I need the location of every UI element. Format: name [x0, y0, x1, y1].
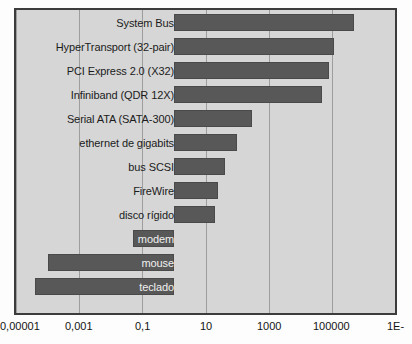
bar-row: FireWire — [16, 179, 395, 203]
category-label: modem — [16, 231, 178, 247]
bar-row: mouse — [16, 251, 395, 275]
category-label: Serial ATA (SATA-300) — [16, 111, 179, 127]
plot-area: System BusHyperTransport (32-pair)PCI Ex… — [16, 10, 395, 313]
bar-row: ethernet de gigabits — [16, 131, 395, 155]
bar — [174, 38, 334, 55]
bar — [174, 134, 237, 151]
bar — [174, 206, 215, 223]
bar-row: HyperTransport (32-pair) — [16, 35, 395, 59]
bar — [174, 158, 225, 175]
category-label: HyperTransport (32-pair) — [16, 39, 179, 55]
bar-chart: System BusHyperTransport (32-pair)PCI Ex… — [0, 0, 412, 344]
bar-row: Infiniband (QDR 12X) — [16, 83, 395, 107]
bar-row: Serial ATA (SATA-300) — [16, 107, 395, 131]
bar — [174, 182, 218, 199]
plot-frame: System BusHyperTransport (32-pair)PCI Ex… — [14, 8, 397, 315]
bar-row: teclado — [16, 275, 395, 299]
x-tick-label: 10 — [200, 319, 212, 333]
bar-row: bus SCSI — [16, 155, 395, 179]
x-tick-label: 0,1 — [135, 319, 150, 333]
bar-row: PCI Express 2.0 (X32) — [16, 59, 395, 83]
bar — [174, 14, 354, 31]
bar-row: disco rígido — [16, 203, 395, 227]
bar — [174, 110, 252, 127]
bar-row: System Bus — [16, 11, 395, 35]
x-tick-label: 1000 — [257, 319, 281, 333]
category-label: disco rígido — [16, 207, 179, 223]
category-label: PCI Express 2.0 (X32) — [16, 63, 179, 79]
category-label: Infiniband (QDR 12X) — [16, 87, 179, 103]
category-label: FireWire — [16, 183, 179, 199]
bar — [174, 86, 322, 103]
x-tick-label: 0,00001 — [0, 319, 40, 333]
x-tick-label: 100000 — [313, 319, 350, 333]
bar-row: modem — [16, 227, 395, 251]
category-label: System Bus — [16, 15, 179, 31]
category-label: bus SCSI — [16, 159, 179, 175]
x-axis-tick-labels: 0,000010,0010,11010001000001E- — [0, 317, 412, 344]
category-label: mouse — [16, 255, 178, 271]
x-tick-label: 0,001 — [65, 319, 93, 333]
category-label: ethernet de gigabits — [16, 135, 179, 151]
category-label: teclado — [16, 279, 178, 295]
bar — [174, 62, 329, 79]
x-tick-label: 1E- — [387, 319, 404, 333]
